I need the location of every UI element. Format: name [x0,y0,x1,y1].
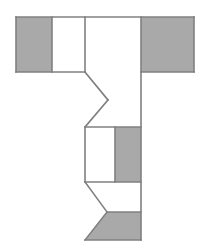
top-left-shaded-block [16,17,52,72]
bottom-chevron-white-region [85,182,141,212]
mid-left-white-block [85,127,115,182]
bottom-chevron-shaded-region [85,212,141,240]
figure-canvas [0,0,209,252]
mid-right-shaded-block [115,127,141,182]
stem-zigzag-white-region [85,72,141,127]
geometric-figure [0,0,209,252]
top-right-shaded-block [141,17,194,72]
shaded-regions-layer [16,17,194,240]
top-left-white-block [52,17,85,72]
top-middle-white-block [85,17,141,72]
